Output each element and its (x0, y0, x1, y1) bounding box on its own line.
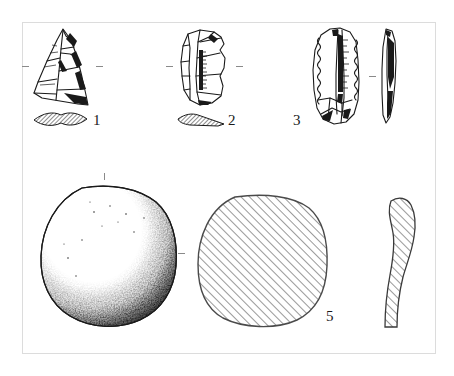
figure-triangular-point-section (33, 111, 89, 129)
figure-retouched-blade (308, 26, 370, 130)
tick-left-of-flake (166, 66, 173, 67)
figure-stone-profile-section (379, 195, 423, 335)
tick-left-of-point (22, 66, 29, 67)
figure-label-5: 5 (326, 309, 334, 324)
figure-label-1: 1 (93, 113, 101, 128)
figure-label-3: 3 (293, 113, 301, 128)
figure-retouched-blade-profile (378, 27, 404, 127)
figure-stone-cross-section (195, 194, 333, 330)
artifact-plate: 1 (0, 0, 454, 376)
tick-right-of-flake (236, 66, 243, 67)
figure-rectangular-flake-section (176, 113, 228, 129)
tick-between-blade-views (369, 76, 376, 77)
tick-right-of-point (96, 66, 103, 67)
figure-label-2: 2 (228, 113, 236, 128)
tick-between-stone-and-section (178, 253, 185, 254)
figure-rectangular-flake (176, 28, 236, 110)
figure-rounded-grinding-stone (38, 184, 180, 330)
figure-triangular-point (30, 27, 96, 109)
tick-above-stone (104, 173, 105, 180)
